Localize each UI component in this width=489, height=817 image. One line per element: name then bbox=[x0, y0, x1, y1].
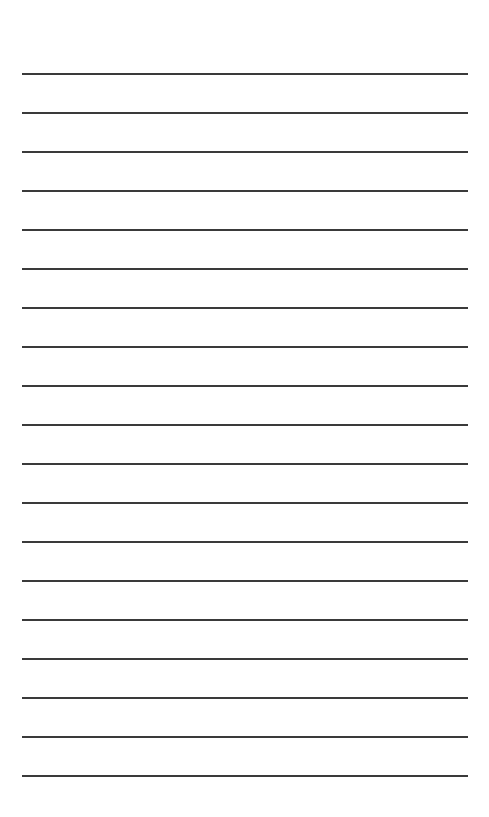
lined-page bbox=[0, 0, 489, 817]
ruled-line bbox=[22, 73, 468, 75]
ruled-line bbox=[22, 151, 468, 153]
ruled-line bbox=[22, 580, 468, 582]
ruled-line bbox=[22, 697, 468, 699]
ruled-line bbox=[22, 463, 468, 465]
ruled-line bbox=[22, 112, 468, 114]
ruled-line bbox=[22, 307, 468, 309]
ruled-line bbox=[22, 268, 468, 270]
ruled-line bbox=[22, 502, 468, 504]
ruled-line bbox=[22, 229, 468, 231]
ruled-line bbox=[22, 190, 468, 192]
ruled-line bbox=[22, 385, 468, 387]
ruled-line bbox=[22, 658, 468, 660]
ruled-line bbox=[22, 736, 468, 738]
ruled-line bbox=[22, 346, 468, 348]
ruled-line bbox=[22, 424, 468, 426]
ruled-line bbox=[22, 541, 468, 543]
ruled-line bbox=[22, 775, 468, 777]
ruled-line bbox=[22, 619, 468, 621]
